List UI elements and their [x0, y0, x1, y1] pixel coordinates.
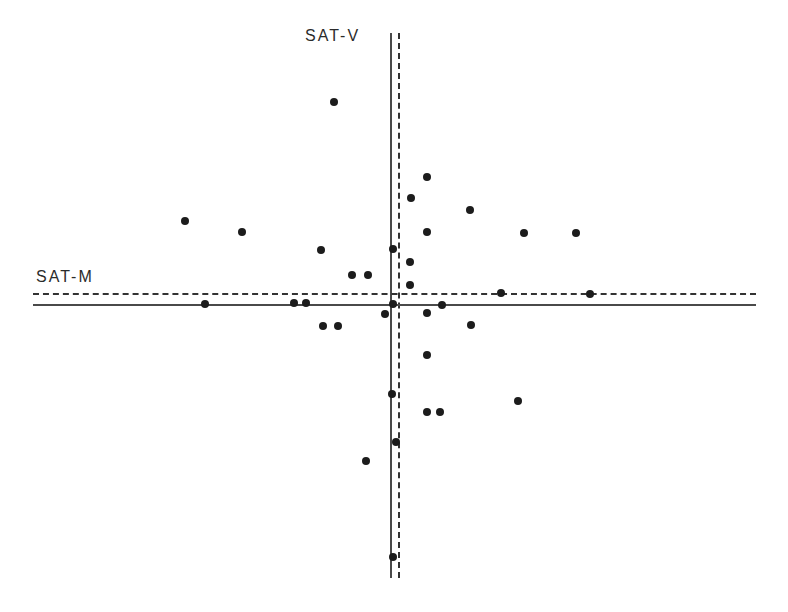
data-point — [388, 390, 396, 398]
scatter-plot-figure: SAT-V SAT-M — [0, 0, 788, 612]
data-point — [572, 229, 580, 237]
data-point — [348, 271, 356, 279]
data-point — [319, 322, 327, 330]
data-point — [466, 206, 474, 214]
data-point — [381, 310, 389, 318]
data-point — [423, 228, 431, 236]
data-point — [586, 290, 594, 298]
data-point — [423, 309, 431, 317]
data-point — [436, 408, 444, 416]
data-point — [330, 98, 338, 106]
data-point — [389, 245, 397, 253]
data-point — [389, 553, 397, 561]
data-point — [334, 322, 342, 330]
horizontal-dashed-axis — [33, 293, 756, 295]
data-point — [181, 217, 189, 225]
data-point — [317, 246, 325, 254]
data-point — [520, 229, 528, 237]
data-point — [467, 321, 475, 329]
data-point — [392, 438, 400, 446]
data-point — [364, 271, 372, 279]
data-point — [423, 408, 431, 416]
data-point — [514, 397, 522, 405]
data-point — [423, 173, 431, 181]
data-point — [302, 299, 310, 307]
data-point — [389, 300, 397, 308]
data-point — [201, 300, 209, 308]
data-point — [438, 301, 446, 309]
data-point — [407, 194, 415, 202]
data-point — [290, 299, 298, 307]
vertical-axis-label: SAT-V — [305, 27, 360, 45]
data-point — [406, 258, 414, 266]
data-point — [362, 457, 370, 465]
data-point — [423, 351, 431, 359]
data-point — [238, 228, 246, 236]
data-point — [406, 281, 414, 289]
horizontal-axis-label: SAT-M — [36, 268, 94, 286]
data-point — [497, 289, 505, 297]
